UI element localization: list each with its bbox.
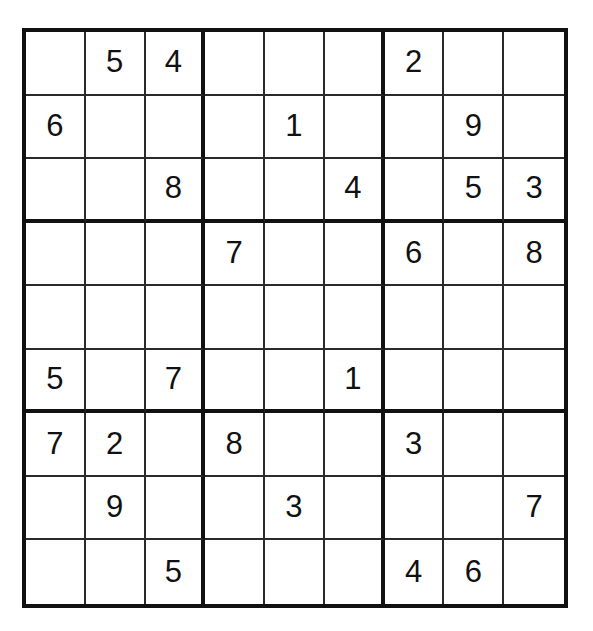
- sudoku-cell-empty[interactable]: [325, 286, 385, 350]
- sudoku-cell-empty[interactable]: [325, 32, 385, 96]
- sudoku-cell-empty[interactable]: [385, 96, 445, 160]
- sudoku-cell-empty[interactable]: [444, 477, 504, 541]
- sudoku-cell-empty[interactable]: [504, 413, 564, 477]
- sudoku-cell-empty[interactable]: [26, 540, 86, 604]
- sudoku-cell-empty[interactable]: [265, 32, 325, 96]
- sudoku-cell-given[interactable]: 1: [265, 96, 325, 160]
- sudoku-cell-given[interactable]: 3: [385, 413, 445, 477]
- sudoku-cell-given[interactable]: 4: [385, 540, 445, 604]
- sudoku-cell-empty[interactable]: [325, 413, 385, 477]
- sudoku-cell-given[interactable]: 9: [86, 477, 146, 541]
- sudoku-cell-empty[interactable]: [325, 223, 385, 287]
- sudoku-cell-given[interactable]: 1: [325, 350, 385, 414]
- sudoku-cell-given[interactable]: 6: [444, 540, 504, 604]
- sudoku-cell-value: 8: [525, 237, 542, 268]
- sudoku-cell-given[interactable]: 6: [26, 96, 86, 160]
- sudoku-cell-empty[interactable]: [26, 223, 86, 287]
- sudoku-cell-given[interactable]: 6: [385, 223, 445, 287]
- sudoku-cell-empty[interactable]: [385, 350, 445, 414]
- sudoku-cell-empty[interactable]: [444, 413, 504, 477]
- sudoku-cell-given[interactable]: 8: [205, 413, 265, 477]
- sudoku-cell-empty[interactable]: [146, 286, 206, 350]
- sudoku-cell-empty[interactable]: [146, 223, 206, 287]
- sudoku-cell-empty[interactable]: [444, 350, 504, 414]
- sudoku-cell-empty[interactable]: [325, 477, 385, 541]
- sudoku-cell-empty[interactable]: [26, 32, 86, 96]
- sudoku-cell-empty[interactable]: [146, 96, 206, 160]
- sudoku-cell-value: 3: [525, 172, 542, 203]
- sudoku-cell-given[interactable]: 2: [86, 413, 146, 477]
- sudoku-cell-value: 6: [405, 237, 422, 268]
- sudoku-cell-empty[interactable]: [26, 159, 86, 223]
- sudoku-cell-empty[interactable]: [205, 96, 265, 160]
- sudoku-cell-given[interactable]: 3: [504, 159, 564, 223]
- sudoku-cell-empty[interactable]: [86, 159, 146, 223]
- sudoku-cell-empty[interactable]: [504, 32, 564, 96]
- sudoku-cell-empty[interactable]: [265, 540, 325, 604]
- sudoku-cell-empty[interactable]: [265, 413, 325, 477]
- sudoku-cell-empty[interactable]: [86, 96, 146, 160]
- sudoku-cell-value: 9: [106, 491, 123, 522]
- sudoku-cell-value: 2: [106, 428, 123, 459]
- sudoku-cell-empty[interactable]: [86, 540, 146, 604]
- sudoku-grid[interactable]: 54261984537685717283937546: [22, 28, 568, 608]
- sudoku-cell-empty[interactable]: [265, 223, 325, 287]
- sudoku-cell-value: 2: [405, 46, 422, 77]
- sudoku-cell-value: 6: [46, 110, 63, 141]
- sudoku-cell-given[interactable]: 3: [265, 477, 325, 541]
- sudoku-cell-empty[interactable]: [444, 286, 504, 350]
- sudoku-cell-given[interactable]: 5: [146, 540, 206, 604]
- sudoku-cell-empty[interactable]: [205, 159, 265, 223]
- sudoku-cell-given[interactable]: 7: [504, 477, 564, 541]
- sudoku-cell-value: 8: [226, 428, 243, 459]
- sudoku-cell-empty[interactable]: [205, 32, 265, 96]
- sudoku-cell-empty[interactable]: [86, 286, 146, 350]
- sudoku-puzzle-page: 54261984537685717283937546: [0, 0, 593, 631]
- sudoku-cell-value: 6: [465, 556, 482, 587]
- sudoku-cell-value: 4: [165, 46, 182, 77]
- sudoku-cell-given[interactable]: 5: [26, 350, 86, 414]
- sudoku-cell-empty[interactable]: [325, 540, 385, 604]
- sudoku-cell-value: 1: [285, 110, 302, 141]
- sudoku-cell-given[interactable]: 7: [146, 350, 206, 414]
- sudoku-cell-given[interactable]: 4: [146, 32, 206, 96]
- sudoku-cell-value: 7: [46, 428, 63, 459]
- sudoku-cell-empty[interactable]: [265, 350, 325, 414]
- sudoku-cell-empty[interactable]: [385, 286, 445, 350]
- sudoku-cell-given[interactable]: 9: [444, 96, 504, 160]
- sudoku-cell-empty[interactable]: [385, 159, 445, 223]
- sudoku-cell-empty[interactable]: [146, 477, 206, 541]
- sudoku-cell-empty[interactable]: [146, 413, 206, 477]
- sudoku-cell-empty[interactable]: [444, 32, 504, 96]
- sudoku-cell-empty[interactable]: [504, 286, 564, 350]
- sudoku-cell-value: 7: [226, 237, 243, 268]
- sudoku-cell-value: 3: [285, 491, 302, 522]
- sudoku-cell-empty[interactable]: [504, 540, 564, 604]
- sudoku-cell-empty[interactable]: [325, 96, 385, 160]
- sudoku-cell-given[interactable]: 2: [385, 32, 445, 96]
- sudoku-cell-empty[interactable]: [504, 350, 564, 414]
- sudoku-cell-value: 5: [106, 46, 123, 77]
- sudoku-cell-given[interactable]: 5: [86, 32, 146, 96]
- sudoku-cell-given[interactable]: 8: [146, 159, 206, 223]
- sudoku-cell-empty[interactable]: [265, 159, 325, 223]
- sudoku-cell-empty[interactable]: [205, 540, 265, 604]
- sudoku-cell-empty[interactable]: [265, 286, 325, 350]
- sudoku-cell-given[interactable]: 7: [26, 413, 86, 477]
- sudoku-cell-empty[interactable]: [504, 96, 564, 160]
- sudoku-cell-given[interactable]: 8: [504, 223, 564, 287]
- sudoku-cell-empty[interactable]: [86, 223, 146, 287]
- sudoku-cell-empty[interactable]: [444, 223, 504, 287]
- sudoku-cell-value: 9: [465, 110, 482, 141]
- sudoku-cell-empty[interactable]: [385, 477, 445, 541]
- sudoku-cell-given[interactable]: 5: [444, 159, 504, 223]
- sudoku-cell-empty[interactable]: [26, 477, 86, 541]
- sudoku-cell-empty[interactable]: [86, 350, 146, 414]
- sudoku-cell-given[interactable]: 7: [205, 223, 265, 287]
- sudoku-cell-given[interactable]: 4: [325, 159, 385, 223]
- sudoku-cell-empty[interactable]: [205, 286, 265, 350]
- sudoku-cell-empty[interactable]: [26, 286, 86, 350]
- sudoku-cell-empty[interactable]: [205, 350, 265, 414]
- sudoku-cell-empty[interactable]: [205, 477, 265, 541]
- sudoku-cell-value: 5: [165, 556, 182, 587]
